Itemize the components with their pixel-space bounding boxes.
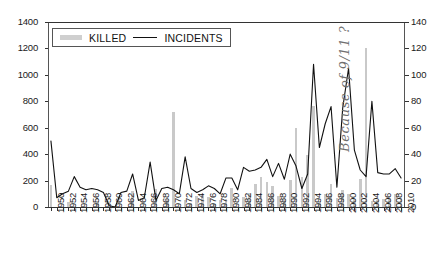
axis-spine: [331, 208, 332, 211]
axis-spine: [290, 208, 291, 211]
axis-spine: [156, 208, 157, 211]
axis-spine: [343, 208, 344, 211]
axis-spine: [45, 22, 48, 23]
axis-spine: [57, 208, 58, 211]
y-left-tick-label: 200: [6, 175, 38, 186]
y-right-tick-label: 20: [411, 175, 440, 186]
axis-spine: [302, 208, 303, 211]
axis-spine: [279, 208, 280, 211]
axis-spine: [296, 208, 297, 211]
axis-spine: [360, 208, 361, 211]
legend-label-killed: KILLED: [89, 32, 126, 44]
axis-spine: [405, 128, 409, 129]
axis-spine: [244, 208, 245, 211]
axis-spine: [354, 208, 355, 211]
axis-spine: [267, 208, 268, 211]
axis-spine: [405, 22, 409, 23]
axis-spine: [249, 208, 250, 211]
axis-spine: [404, 22, 405, 207]
axis-spine: [98, 208, 99, 211]
axis-spine: [319, 208, 320, 211]
axis-spine: [45, 101, 48, 102]
axis-spine: [366, 208, 367, 211]
y-left-tick-label: 600: [6, 122, 38, 133]
terrorism-chart: KILLED INCIDENTS Because of 9/11 ? 02004…: [0, 0, 440, 263]
axis-spine: [405, 48, 409, 49]
axis-spine: [92, 208, 93, 211]
axis-spine: [173, 208, 174, 211]
y-left-tick-label: 1200: [6, 42, 38, 53]
axis-spine: [133, 208, 134, 211]
axis-spine: [197, 208, 198, 211]
legend-incidents-swatch-icon: [133, 37, 157, 38]
axis-spine: [337, 208, 338, 211]
axis-spine: [349, 208, 350, 211]
axis-spine: [191, 208, 192, 211]
axis-spine: [45, 75, 48, 76]
axis-spine: [255, 208, 256, 211]
axis-spine: [86, 208, 87, 211]
axis-spine: [232, 208, 233, 211]
y-right-tick-label: 100: [411, 69, 440, 80]
axis-spine: [45, 154, 48, 155]
y-left-tick-label: 1400: [6, 16, 38, 27]
axis-spine: [372, 208, 373, 211]
y-left-tick-label: 0: [6, 201, 38, 212]
axis-spine: [45, 48, 48, 49]
axis-spine: [284, 208, 285, 211]
y-right-tick-label: 60: [411, 122, 440, 133]
y-right-tick-label: 120: [411, 42, 440, 53]
axis-spine: [127, 208, 128, 211]
axis-spine: [273, 208, 274, 211]
axis-spine: [389, 208, 390, 211]
axis-spine: [405, 101, 409, 102]
axis-spine: [308, 208, 309, 211]
axis-spine: [45, 207, 48, 208]
y-right-tick-label: 140: [411, 16, 440, 27]
axis-spine: [405, 154, 409, 155]
axis-spine: [179, 208, 180, 211]
axis-spine: [115, 208, 116, 211]
axis-spine: [405, 181, 409, 182]
axis-spine: [401, 208, 402, 211]
axis-spine: [168, 208, 169, 211]
axis-spine: [109, 208, 110, 211]
axis-spine: [150, 208, 151, 211]
chart-legend: KILLED INCIDENTS: [52, 28, 231, 47]
axis-spine: [395, 208, 396, 211]
axis-spine: [48, 22, 405, 23]
x-tick-label: 2010: [405, 193, 416, 213]
axis-spine: [378, 208, 379, 211]
legend-label-incidents: INCIDENTS: [164, 32, 222, 44]
axis-spine: [384, 208, 385, 211]
axis-spine: [63, 208, 64, 211]
axis-spine: [405, 75, 409, 76]
axis-spine: [144, 208, 145, 211]
axis-spine: [45, 128, 48, 129]
axis-spine: [261, 208, 262, 211]
y-left-tick-label: 1000: [6, 69, 38, 80]
axis-spine: [45, 181, 48, 182]
axis-spine: [48, 22, 49, 207]
handwritten-annotation-9-11: Because of 9/11 ?: [337, 26, 352, 152]
axis-spine: [121, 208, 122, 211]
axis-spine: [162, 208, 163, 211]
axis-spine: [220, 208, 221, 211]
axis-spine: [208, 208, 209, 211]
axis-spine: [138, 208, 139, 211]
axis-spine: [238, 208, 239, 211]
legend-killed-swatch-icon: [60, 35, 82, 40]
axis-spine: [203, 208, 204, 211]
axis-spine: [214, 208, 215, 211]
axis-spine: [80, 208, 81, 211]
axis-spine: [68, 208, 69, 211]
y-right-tick-label: 40: [411, 148, 440, 159]
axis-spine: [314, 208, 315, 211]
y-right-tick-label: 80: [411, 95, 440, 106]
y-left-tick-label: 400: [6, 148, 38, 159]
axis-spine: [185, 208, 186, 211]
axis-spine: [51, 208, 52, 211]
y-left-tick-label: 800: [6, 95, 38, 106]
axis-spine: [325, 208, 326, 211]
axis-spine: [74, 208, 75, 211]
